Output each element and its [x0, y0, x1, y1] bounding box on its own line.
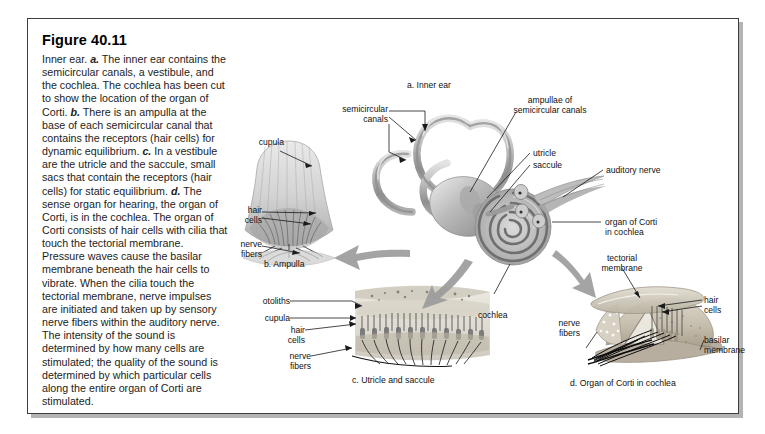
label-c-otoliths: otoliths	[238, 296, 290, 306]
figure-number: Figure 40.11	[42, 33, 332, 49]
label-d-basilar-membrane: basilar membrane	[704, 335, 745, 356]
label-b-cupula: cupula	[236, 137, 284, 147]
label-d-tectorial-membrane: tectorial membrane	[588, 253, 656, 274]
label-c-hair-cells: hair cells	[257, 325, 305, 346]
panel-a-title: a. Inner ear	[389, 80, 469, 90]
label-ampullae-of-semicircular-canals: ampullae of semicircular canals	[494, 95, 606, 116]
label-organ-of-corti-in-cochlea: organ of Corti in cochlea	[605, 217, 657, 238]
label-b-nerve-fibers: nerve fibers	[208, 239, 262, 260]
caption-part-label: d.	[171, 185, 181, 197]
label-c-cupula: cupula	[238, 313, 290, 323]
caption-part-label: c.	[142, 145, 151, 157]
figure-root: Figure 40.11 Inner ear. a. The inner ear…	[0, 0, 765, 434]
figure-caption-text: Inner ear. a. The inner ear contains the…	[42, 53, 228, 408]
caption-part-label: b.	[71, 106, 81, 118]
label-auditory-nerve: auditory nerve	[606, 165, 660, 175]
caption-part-label: a.	[90, 53, 99, 65]
label-utricle: utricle	[533, 148, 556, 158]
label-d-hair-cells: hair cells	[704, 295, 721, 316]
caption-rich-text: Inner ear. a. The inner ear contains the…	[42, 53, 227, 407]
panel-c-title: c. Utricle and saccule	[352, 375, 435, 385]
panel-d-title: d. Organ of Corti in cochlea	[570, 378, 676, 388]
label-d-nerve-fibers: nerve fibers	[524, 318, 580, 339]
panel-b-title: b. Ampulla	[264, 259, 305, 269]
label-b-hair-cells: hair cells	[214, 205, 262, 226]
label-saccule: saccule	[533, 160, 562, 170]
label-c-nerve-fibers: nerve fibers	[257, 351, 311, 372]
label-semicircular-canals: semicircular canals	[320, 104, 388, 125]
label-cochlea: cochlea	[478, 310, 508, 320]
